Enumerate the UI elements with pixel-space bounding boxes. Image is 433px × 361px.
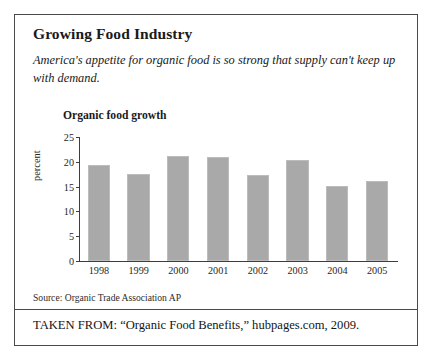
x-axis-tick-label: 1999 [119,265,159,276]
figure-lede: America's appetite for organic food is s… [33,51,405,87]
bar-2005 [366,181,388,261]
y-axis-tick-mark [76,162,79,163]
y-axis-label: percent [31,150,42,181]
x-axis-line [79,261,398,262]
bar-1998 [88,165,110,261]
x-axis-tick-label: 2003 [278,265,318,276]
bar-2000 [167,156,189,261]
y-axis-tick-mark [76,211,79,212]
bar-2001 [207,157,229,261]
x-axis-tick-label: 2001 [198,265,238,276]
x-axis-tick-label: 2005 [357,265,397,276]
figure-frame: Growing Food Industry America's appetite… [14,14,418,346]
footer-divider [15,309,417,310]
bar-2003 [286,160,308,261]
chart-title: Organic food growth [63,109,166,122]
y-axis-tick-mark [76,261,79,262]
bar-chart: percent 0510152025 199819992000200120022… [33,131,405,293]
chart-source: Source: Organic Trade Association AP [33,292,181,303]
x-axis-tick-label: 2002 [238,265,278,276]
taken-from-credit: TAKEN FROM: “Organic Food Benefits,” hub… [33,318,359,333]
plot-area: 0510152025 [79,137,397,261]
x-axis-tick-label: 2004 [318,265,358,276]
figure-headline: Growing Food Industry [33,25,192,43]
x-axis-tick-label: 2000 [159,265,199,276]
y-axis-tick-mark [76,236,79,237]
y-axis-tick-mark [76,137,79,138]
page-canvas: Growing Food Industry America's appetite… [0,0,433,361]
bar-2004 [326,186,348,261]
x-axis-tick-label: 1998 [79,265,119,276]
bar-1999 [127,174,149,261]
bar-2002 [247,175,269,261]
y-axis-tick-mark [76,187,79,188]
